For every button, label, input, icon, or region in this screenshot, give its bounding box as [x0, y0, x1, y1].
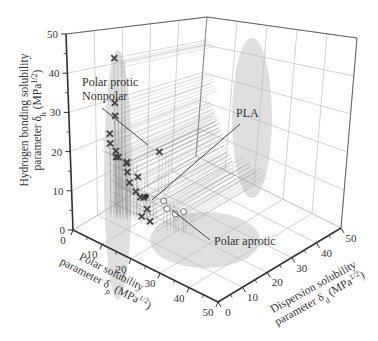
- dd-tick-label: 10: [247, 291, 259, 303]
- circle-marker: [181, 209, 187, 215]
- projection-hatch: [144, 169, 231, 220]
- dh-tick-label: 50: [47, 28, 59, 40]
- dd-tick: [341, 228, 344, 233]
- dd-tick: [316, 243, 319, 248]
- dp-tick: [129, 259, 131, 264]
- dh-axis-label-line1: Hydrogen bonding solubility: [18, 53, 31, 186]
- dh-axis-label-unit: (MPa: [31, 84, 44, 112]
- dh-axis-label-line2: parameter δ: [31, 116, 44, 170]
- dh-tick-label: 20: [51, 146, 63, 158]
- projection-hatch: [120, 89, 216, 123]
- dp-tick: [216, 302, 218, 307]
- projection-hatch: [117, 42, 211, 61]
- back-wall-grid-line: [200, 100, 347, 152]
- left-wall-grid-line: [94, 31, 97, 216]
- dd-tick: [267, 272, 270, 277]
- projection-to-back-wall: [146, 153, 226, 197]
- dd-tick-label: 30: [296, 262, 308, 274]
- dp-tick-label: 30: [145, 277, 157, 289]
- back-wall-grid-line: [205, 45, 354, 76]
- projection-hatch: [168, 163, 248, 208]
- dp-tick-label: 0: [60, 234, 66, 246]
- back-wall-grid-line: [283, 30, 297, 200]
- projection-hatch: [119, 117, 217, 161]
- dd-tick-label: 0: [225, 306, 231, 318]
- dd-tick-label: 40: [321, 247, 333, 259]
- dh-axis-label-sup: 1/2: [30, 73, 39, 83]
- dp-tick: [100, 244, 102, 249]
- solubility-3d-scatter-chart: Polar proticNonpolarPLAPolar aprotic 010…: [0, 0, 378, 341]
- dd-minor-tick: [255, 280, 257, 283]
- dd-minor-tick: [329, 235, 331, 238]
- projection-to-back-wall: [127, 123, 214, 163]
- back-wall-grid-line: [203, 73, 351, 114]
- frame-edge: [341, 38, 357, 228]
- dd-minor-tick: [230, 295, 232, 298]
- pla-marker: [144, 194, 149, 199]
- projection-hatch: [119, 44, 213, 64]
- dp-tick: [158, 273, 160, 278]
- dp-tick: [187, 288, 189, 293]
- annotation-label: Polar protic: [82, 75, 138, 89]
- projection-hatch: [162, 152, 163, 191]
- dd-tick: [243, 287, 246, 292]
- dd-tick: [292, 258, 295, 263]
- dp-tick-label: 50: [203, 306, 215, 318]
- annotation-label: Polar aprotic: [214, 234, 276, 248]
- dh-tick-label: 30: [50, 106, 62, 118]
- projection-to-back-wall: [114, 40, 208, 58]
- projection-hatch: [121, 119, 214, 161]
- dh-tick-label: 10: [53, 185, 65, 197]
- circle-marker: [161, 198, 167, 204]
- back-wall-grid-line: [312, 34, 327, 214]
- annotation-label: PLA: [236, 106, 259, 120]
- dh-axis-label-close: ): [31, 69, 44, 73]
- projection-hatch: [121, 46, 215, 67]
- dd-minor-tick: [304, 250, 306, 253]
- annotation-label: Nonpolar: [82, 89, 127, 103]
- chart-canvas: Polar proticNonpolarPLAPolar aprotic 010…: [0, 0, 378, 341]
- dd-tick-label: 50: [346, 232, 358, 244]
- circle-marker: [164, 206, 170, 212]
- projection-to-back-wall: [138, 135, 222, 177]
- annotation-pointer: [152, 124, 240, 200]
- projection-hatch: [122, 91, 217, 126]
- dp-tick: [71, 230, 73, 235]
- frame-edge: [207, 17, 357, 38]
- projection-hatch: [129, 126, 216, 167]
- dp-tick-label: 40: [174, 292, 186, 304]
- dh-tick-label: 40: [48, 67, 60, 79]
- projection-hatch: [132, 134, 224, 179]
- dd-tick: [218, 302, 221, 307]
- frame-edge: [66, 17, 207, 34]
- left-wall-grid-line: [67, 45, 204, 73]
- frame-edge: [196, 17, 207, 156]
- dh-axis-label: Hydrogen bonding solubilityparameter δh …: [18, 53, 48, 186]
- projection-hatch: [178, 172, 258, 217]
- dd-minor-tick: [280, 265, 282, 268]
- dd-tick-label: 20: [272, 276, 284, 288]
- projection-to-back-wall: [167, 163, 250, 209]
